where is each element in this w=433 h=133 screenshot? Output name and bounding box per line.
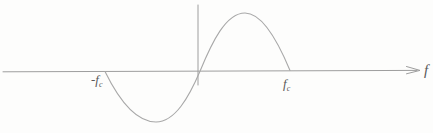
pos-fc-label: fc (283, 76, 291, 93)
diagram-canvas: -fc fc f (0, 0, 433, 133)
pos-fc-label-sub: c (287, 84, 291, 93)
neg-fc-label-sub: c (99, 80, 103, 89)
axis-f-label: f (424, 62, 430, 78)
frequency-axis (3, 70, 417, 71)
neg-fc-label: -fc (91, 72, 103, 89)
curve-sketch-figure: -fc fc f (0, 0, 433, 133)
